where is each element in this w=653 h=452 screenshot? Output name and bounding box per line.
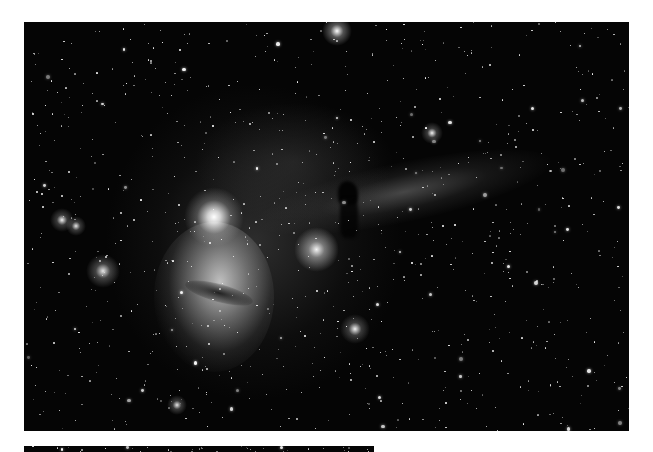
star xyxy=(385,351,386,352)
star xyxy=(86,306,87,307)
star xyxy=(505,259,507,261)
star xyxy=(274,59,275,60)
star xyxy=(316,154,317,155)
star xyxy=(231,377,233,379)
star xyxy=(330,147,331,148)
star xyxy=(162,107,163,108)
star xyxy=(206,392,207,393)
star xyxy=(80,352,81,353)
star xyxy=(204,241,205,242)
star xyxy=(594,372,595,373)
star xyxy=(445,427,447,429)
star xyxy=(211,402,212,403)
star xyxy=(95,31,96,32)
star xyxy=(440,167,441,168)
star xyxy=(89,343,90,344)
star xyxy=(134,75,136,77)
star xyxy=(112,329,114,331)
star xyxy=(344,450,345,451)
star xyxy=(445,387,446,388)
star xyxy=(276,42,280,46)
star xyxy=(298,270,299,271)
star xyxy=(362,126,363,127)
star xyxy=(255,221,257,223)
glow-star xyxy=(322,22,352,46)
star xyxy=(233,161,235,163)
star xyxy=(394,250,395,251)
star xyxy=(468,162,469,163)
star xyxy=(178,204,180,206)
star xyxy=(412,349,413,350)
star xyxy=(259,129,260,130)
star xyxy=(219,99,220,100)
star xyxy=(288,418,289,419)
star xyxy=(92,93,93,94)
star xyxy=(549,170,550,171)
star xyxy=(439,408,440,409)
star xyxy=(531,107,534,110)
star xyxy=(496,124,497,125)
star xyxy=(605,118,606,119)
star xyxy=(372,54,374,56)
star xyxy=(538,391,539,392)
star xyxy=(61,195,63,197)
star xyxy=(448,174,450,176)
star xyxy=(373,141,374,142)
star xyxy=(571,273,572,274)
star xyxy=(489,64,491,66)
star xyxy=(37,125,38,126)
star xyxy=(265,51,266,52)
star xyxy=(131,179,132,180)
star xyxy=(55,310,56,311)
star xyxy=(418,208,419,209)
star xyxy=(276,358,278,360)
star xyxy=(506,209,507,210)
star xyxy=(431,255,433,257)
star xyxy=(43,411,45,413)
star xyxy=(333,306,334,307)
star xyxy=(582,74,583,75)
star xyxy=(206,394,207,395)
star xyxy=(448,121,451,124)
star xyxy=(497,430,499,431)
star xyxy=(411,50,412,51)
star xyxy=(171,401,172,402)
star xyxy=(362,364,363,365)
star xyxy=(36,191,38,193)
star xyxy=(285,207,286,208)
star xyxy=(212,299,214,301)
star xyxy=(363,202,364,203)
star xyxy=(315,192,316,193)
star xyxy=(35,64,36,65)
star xyxy=(351,265,353,267)
star xyxy=(574,158,576,160)
star xyxy=(123,85,124,86)
star xyxy=(364,133,366,135)
star xyxy=(96,100,98,102)
star xyxy=(235,122,236,123)
star xyxy=(391,166,392,167)
star xyxy=(367,93,368,94)
star xyxy=(348,447,350,449)
star xyxy=(208,343,210,345)
star xyxy=(541,153,542,154)
star xyxy=(350,373,351,374)
star xyxy=(471,52,472,53)
star xyxy=(180,403,181,404)
star xyxy=(338,168,339,169)
star xyxy=(566,228,569,231)
star xyxy=(59,410,60,411)
star xyxy=(334,175,335,176)
star xyxy=(167,113,168,114)
star xyxy=(553,266,554,267)
star xyxy=(604,365,605,366)
star xyxy=(47,316,48,317)
star xyxy=(517,181,518,182)
star xyxy=(283,366,284,367)
star xyxy=(492,222,493,223)
star xyxy=(547,164,548,165)
star xyxy=(484,273,485,274)
star xyxy=(340,109,341,110)
star xyxy=(133,85,135,87)
star xyxy=(213,209,214,210)
